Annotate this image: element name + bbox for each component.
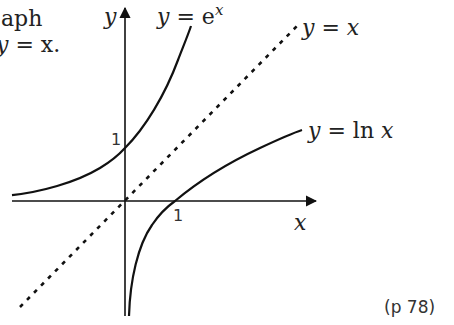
label-exp: y = ex: [156, 1, 224, 29]
text-fragment-eq: = x.: [8, 32, 60, 57]
text-fragment-line2: y = x.: [0, 32, 60, 57]
curve-ln: [129, 130, 302, 316]
page-reference: (p 78): [384, 297, 435, 317]
y-tick-1: 1: [111, 130, 121, 149]
graph-canvas: aph y = x. y x 1 1 y = ex y = x y = ln x…: [0, 0, 454, 325]
label-identity: y = x: [301, 15, 360, 40]
label-ln: y = ln x: [307, 118, 394, 143]
line-y-equals-x: [20, 25, 298, 307]
x-axis-label: x: [294, 210, 307, 235]
x-tick-1: 1: [173, 206, 183, 225]
text-fragment-line1: aph: [1, 6, 42, 31]
label-exp-sup: x: [215, 1, 224, 19]
y-axis-label: y: [103, 4, 117, 29]
graph-figure: aph y = x. y x 1 1 y = ex y = x y = ln x…: [0, 0, 454, 325]
